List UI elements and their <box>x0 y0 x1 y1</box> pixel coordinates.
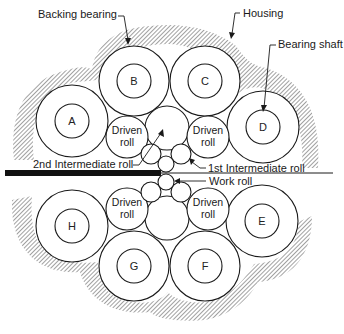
label-housing: Housing <box>243 7 283 19</box>
bearing-label-a: A <box>68 115 76 127</box>
driven-roll-upper-right: Driven roll <box>187 116 229 158</box>
svg-text:Driven: Driven <box>193 196 224 208</box>
bearing-label-b: B <box>130 75 137 87</box>
backing-bearing-h: H <box>36 190 108 262</box>
bearing-label-g: G <box>130 260 139 272</box>
bearing-label-h: H <box>68 220 76 232</box>
svg-text:roll: roll <box>120 136 134 148</box>
second-intermediate-roll-lower <box>145 196 189 240</box>
backing-bearing-e: E <box>226 185 298 257</box>
svg-text:Driven: Driven <box>112 196 143 208</box>
svg-text:Driven: Driven <box>112 124 143 136</box>
backing-bearing-c: C <box>170 46 240 116</box>
svg-text:Driven: Driven <box>193 124 224 136</box>
backing-bearing-b: B <box>99 46 169 116</box>
label-second-intermediate-roll: 2nd Intermediate roll <box>33 158 133 170</box>
svg-text:roll: roll <box>120 208 134 220</box>
label-bearing-shaft: Bearing shaft <box>278 38 343 50</box>
svg-text:roll: roll <box>201 136 215 148</box>
rolling-mill-diagram: A B C D E F G H <box>0 0 344 334</box>
backing-bearing-a: A <box>36 85 108 157</box>
strip-thick <box>5 170 161 176</box>
label-backing-bearing: Backing bearing <box>38 8 117 20</box>
label-first-intermediate-roll: 1st Intermediate roll <box>208 162 305 174</box>
driven-roll-lower-right: Driven roll <box>187 188 229 230</box>
bearing-label-c: C <box>201 75 209 87</box>
label-work-roll: Work roll <box>209 175 252 187</box>
backing-bearing-f: F <box>170 231 240 301</box>
svg-text:roll: roll <box>201 208 215 220</box>
second-intermediate-roll-upper <box>145 106 189 150</box>
backing-bearing-g: G <box>99 231 169 301</box>
bearing-label-e: E <box>258 215 265 227</box>
backing-bearing-d: D <box>227 91 299 163</box>
bearing-label-d: D <box>259 121 267 133</box>
bearing-label-f: F <box>202 260 209 272</box>
